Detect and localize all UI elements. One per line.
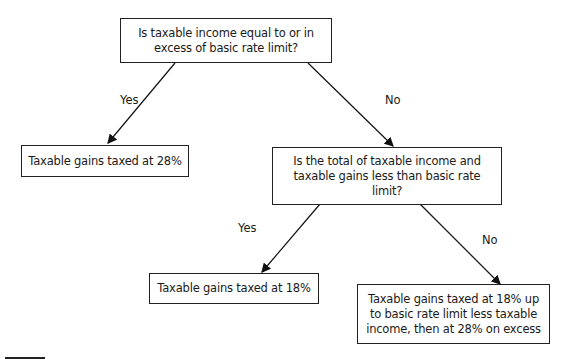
result-text: Taxable gains taxed at 28%	[28, 154, 181, 169]
edge-label-yes: Yes	[120, 93, 139, 107]
decision-box-income-vs-limit: Is taxable income equal to or in excess …	[120, 18, 332, 63]
decision-box-total-vs-limit: Is the total of taxable income and taxab…	[272, 147, 502, 205]
edge-label-no: No	[385, 93, 401, 107]
decision-text: Is taxable income equal to or in excess …	[121, 26, 331, 56]
result-box-28-percent: Taxable gains taxed at 28%	[21, 145, 189, 177]
decision-text: Is the total of taxable income and taxab…	[281, 154, 493, 199]
result-box-18-percent: Taxable gains taxed at 18%	[149, 273, 319, 304]
edge-label-no: No	[482, 233, 498, 247]
result-text: Taxable gains taxed at 18%	[157, 281, 310, 296]
result-box-split-rate: Taxable gains taxed at 18% up to basic r…	[357, 284, 550, 344]
result-text: Taxable gains taxed at 18% up to basic r…	[364, 292, 543, 337]
edge-label-yes: Yes	[238, 221, 257, 235]
